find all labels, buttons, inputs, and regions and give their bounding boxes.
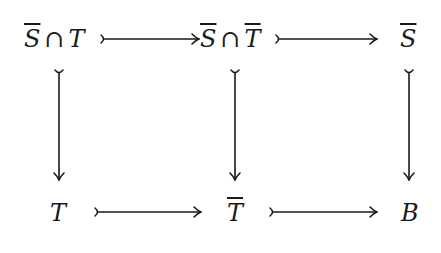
arrow-top-middle-to-top-right	[276, 34, 377, 44]
arrow-bottom-left-to-bottom-middle	[95, 207, 201, 217]
arrow-top-right-to-bottom-right	[404, 70, 414, 180]
arrow-top-middle-to-bottom-middle	[230, 70, 240, 180]
arrow-top-left-to-top-middle	[101, 34, 199, 44]
arrow-bottom-middle-to-bottom-right	[270, 207, 377, 217]
arrow-top-left-to-bottom-left	[54, 70, 64, 180]
arrows-layer	[0, 0, 441, 253]
